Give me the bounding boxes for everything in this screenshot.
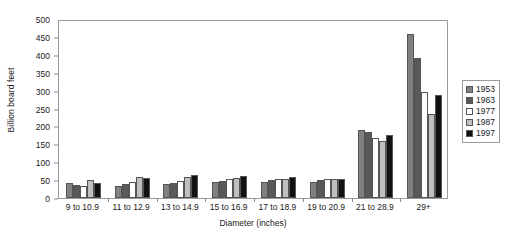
y-axis-tick-labels: 050100150200250300350400450500: [20, 20, 54, 199]
bar-1977-15-to-16-9[interactable]: [226, 179, 233, 198]
y-axis-tick-label: 500: [36, 15, 50, 25]
bar-group: [157, 21, 206, 198]
bar-1963-19-to-20-9[interactable]: [317, 180, 324, 198]
legend-swatch-icon: [466, 119, 473, 126]
bar-1953-9-to-10-9[interactable]: [66, 183, 73, 198]
bar-1977-11-to-12-9[interactable]: [129, 182, 136, 198]
y-axis-tick-label: 300: [36, 87, 50, 97]
bar-1977-9-to-10-9[interactable]: [80, 186, 87, 198]
legend-swatch-icon: [466, 108, 473, 115]
plot-area: [58, 20, 448, 199]
y-axis-tick-label: 150: [36, 140, 50, 150]
y-axis-title-text: Billion board feet: [6, 67, 16, 132]
bar-1963-11-to-12-9[interactable]: [122, 184, 129, 198]
legend-item-1977[interactable]: 1977: [466, 106, 495, 117]
bar-1963-9-to-10-9[interactable]: [73, 185, 80, 198]
x-axis-title-text: Diameter (inches): [219, 218, 286, 228]
bar-1977-19-to-20-9[interactable]: [324, 179, 331, 198]
bar-group: [254, 21, 303, 198]
y-axis-tick-label: 200: [36, 122, 50, 132]
legend-swatch-icon: [466, 86, 473, 93]
legend-item-1963[interactable]: 1963: [466, 95, 495, 106]
bar-1953-21-to-28-9[interactable]: [358, 130, 365, 198]
bar-1977-21-to-28-9[interactable]: [372, 138, 379, 198]
y-axis-tick-label: 50: [41, 176, 50, 186]
bar-group: [400, 21, 449, 198]
x-axis-tick-label: 19 to 20.9: [307, 202, 345, 212]
legend-item-label: 1953: [476, 84, 495, 95]
bar-1953-29-[interactable]: [407, 34, 414, 198]
y-axis-tick-label: 250: [36, 105, 50, 115]
x-axis-title: Diameter (inches): [58, 218, 448, 228]
legend-item-label: 1963: [476, 95, 495, 106]
x-axis-tick-label: 9 to 10.9: [66, 202, 99, 212]
bar-1987-9-to-10-9[interactable]: [87, 180, 94, 198]
y-axis-tick-label: 400: [36, 51, 50, 61]
bar-1987-17-to-18-9[interactable]: [282, 179, 289, 198]
bar-1963-15-to-16-9[interactable]: [219, 181, 226, 198]
bar-1987-13-to-14-9[interactable]: [184, 177, 191, 198]
bar-group: [108, 21, 157, 198]
bar-1963-29-[interactable]: [414, 58, 421, 198]
x-axis-tick-label: 11 to 12.9: [113, 202, 150, 212]
bar-1953-17-to-18-9[interactable]: [261, 182, 268, 198]
bar-1997-29-[interactable]: [435, 95, 442, 198]
legend-item-label: 1987: [476, 117, 495, 128]
bar-group: [205, 21, 254, 198]
y-axis-tick-label: 350: [36, 69, 50, 79]
legend-item-1997[interactable]: 1997: [466, 128, 495, 139]
bar-1987-11-to-12-9[interactable]: [136, 177, 143, 198]
legend-swatch-icon: [466, 130, 473, 137]
bar-chart-figure: Billion board feet 050100150200250300350…: [0, 0, 528, 249]
bar-1997-21-to-28-9[interactable]: [386, 135, 393, 198]
bar-1997-13-to-14-9[interactable]: [191, 175, 198, 198]
bar-1997-11-to-12-9[interactable]: [143, 178, 150, 198]
x-axis-tick-label: 13 to 14.9: [161, 202, 199, 212]
bar-1987-21-to-28-9[interactable]: [379, 141, 386, 198]
bar-1997-19-to-20-9[interactable]: [338, 179, 345, 198]
legend-item-label: 1977: [476, 106, 495, 117]
bar-1997-9-to-10-9[interactable]: [94, 183, 101, 198]
legend: 19531963197719871997: [462, 80, 500, 143]
bar-1953-15-to-16-9[interactable]: [212, 182, 219, 198]
bar-1997-15-to-16-9[interactable]: [240, 176, 247, 198]
bar-1963-17-to-18-9[interactable]: [268, 180, 275, 198]
y-axis-tick-label: 0: [45, 194, 50, 204]
bar-1963-21-to-28-9[interactable]: [365, 132, 372, 198]
legend-item-1987[interactable]: 1987: [466, 117, 495, 128]
x-axis-tick-label: 15 to 16.9: [210, 202, 248, 212]
x-axis-tick-label: 21 to 28.9: [356, 202, 394, 212]
y-axis-title: Billion board feet: [2, 0, 20, 200]
bar-1977-17-to-18-9[interactable]: [275, 179, 282, 198]
bar-1963-13-to-14-9[interactable]: [170, 183, 177, 198]
x-axis-tick-label: 17 to 18.9: [258, 202, 296, 212]
bar-1987-15-to-16-9[interactable]: [233, 178, 240, 198]
plot-bars-container: [59, 21, 447, 198]
bar-group: [303, 21, 352, 198]
bar-1987-29-[interactable]: [428, 114, 435, 198]
x-axis-tick-labels: 9 to 10.911 to 12.913 to 14.915 to 16.91…: [58, 202, 448, 216]
bar-group: [352, 21, 401, 198]
x-axis-tick-label: 29+: [416, 202, 430, 212]
legend-item-label: 1997: [476, 128, 495, 139]
bar-1987-19-to-20-9[interactable]: [331, 179, 338, 198]
bar-1977-13-to-14-9[interactable]: [177, 181, 184, 198]
legend-swatch-icon: [466, 97, 473, 104]
y-axis-tick-label: 100: [36, 158, 50, 168]
bar-1997-17-to-18-9[interactable]: [289, 177, 296, 198]
bar-1953-19-to-20-9[interactable]: [310, 182, 317, 198]
bar-group: [59, 21, 108, 198]
bar-1953-13-to-14-9[interactable]: [163, 184, 170, 198]
bar-1953-11-to-12-9[interactable]: [115, 186, 122, 198]
y-axis-tick-label: 450: [36, 33, 50, 43]
bar-1977-29-[interactable]: [421, 92, 428, 198]
legend-item-1953[interactable]: 1953: [466, 84, 495, 95]
